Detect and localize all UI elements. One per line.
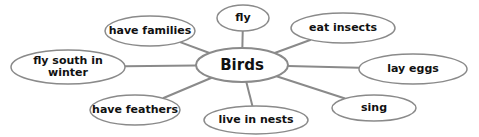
node-label-have-families: have families [105,16,195,46]
node-label-sing: sing [332,95,416,121]
node-label-live-in-nests: live in nests [204,106,308,134]
connector-line-fly-south-in-winter [125,66,196,67]
node-label-eat-insects: eat insects [291,13,395,43]
node-label-lay-eggs: lay eggs [359,54,467,84]
birds-concept-web: flyeat insectslay eggssinglive in nestsh… [0,0,479,137]
connector-line-lay-eggs [288,66,359,68]
node-label-fly: fly [217,5,269,31]
connector-line-live-in-nests [246,82,252,106]
node-label-have-feathers: have feathers [90,95,180,125]
center-label-birds: Birds [196,48,288,82]
node-label-fly-south-in-winter: fly south in winter [11,50,125,84]
